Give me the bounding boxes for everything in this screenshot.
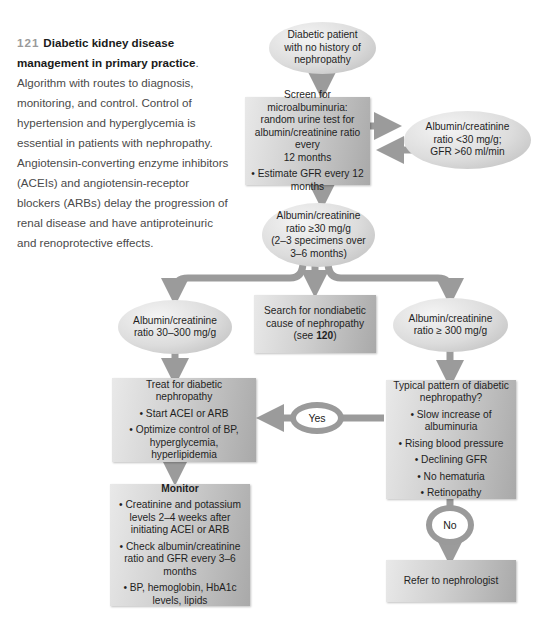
typical-title: Typical pattern of diabetic nephropathy? (392, 380, 510, 405)
yes-label: Yes (308, 412, 325, 424)
refer-box: Refer to nephrologist (386, 560, 516, 602)
monitor-bullet: • Check albumin/creatinine ratio and GFR… (116, 541, 244, 579)
ref-figure: 120 (316, 330, 333, 341)
normal-line: ratio <30 mg/g; (433, 134, 501, 147)
treat-bullet: • Start ACEI or ARB (139, 408, 228, 421)
screen-bullet: • Estimate GFR every 12 months (251, 168, 364, 193)
screen-line: random urine test for (261, 114, 355, 127)
screen-box: Screen for microalbuminuria: random urin… (245, 97, 370, 185)
screen-line: 12 months (284, 152, 332, 165)
typical-bullet: • No hematuria (417, 471, 485, 484)
nondiabetic-line: Search for nondiabetic (264, 305, 366, 318)
macro-line: ratio ≥ 300 mg/g (414, 325, 488, 338)
ref-prefix: (see (293, 330, 316, 341)
elevated-line: (2–3 specimens over (271, 235, 366, 248)
macro-line: Albumin/creatinine (409, 313, 493, 326)
microalbuminuria-node: Albumin/creatinine ratio 30–300 mg/g (118, 300, 232, 354)
monitor-title: Monitor (161, 483, 198, 496)
monitor-bullet: • BP, hemoglobin, HbA1c levels, lipids (116, 582, 244, 607)
normal-result-node: Albumin/creatinine ratio <30 mg/g; GFR >… (404, 111, 531, 169)
monitor-box: Monitor • Creatinine and potassium level… (110, 484, 250, 606)
elevated-line: 3–6 months) (290, 248, 347, 261)
treat-bullet: • Optimize control of BP, hyperglycemia,… (118, 424, 250, 462)
elevated-line: ratio ≥30 mg/g (286, 223, 351, 236)
no-label: No (443, 519, 456, 531)
monitor-bullet: • Creatinine and potassium levels 2–4 we… (116, 499, 244, 537)
typical-bullet: • Slow increase of albuminuria (392, 409, 510, 434)
nondiabetic-line: cause of nephropathy (266, 318, 364, 331)
arrow-elevated-to-macro (328, 262, 450, 292)
start-node: Diabetic patient with no history of neph… (269, 22, 376, 74)
normal-line: GFR >60 ml/min (430, 146, 504, 159)
typical-pattern-box: Typical pattern of diabetic nephropathy?… (386, 380, 516, 499)
elevated-result-node: Albumin/creatinine ratio ≥30 mg/g (2–3 s… (262, 203, 375, 267)
typical-bullet: • Rising blood pressure (399, 438, 504, 451)
ref-suffix: ) (333, 330, 336, 341)
treat-box: Treat for diabetic nephropathy • Start A… (112, 378, 256, 462)
nondiabetic-reference: (see 120) (293, 330, 336, 343)
start-line: Diabetic patient (287, 29, 357, 42)
screen-line: albumin/creatinine ratio every (251, 127, 364, 152)
no-decision: No (426, 505, 474, 545)
typical-bullet: • Retinopathy (421, 487, 482, 500)
micro-line: Albumin/creatinine (133, 315, 217, 328)
screen-line: Screen for microalbuminuria: (251, 89, 364, 114)
nondiabetic-box: Search for nondiabetic cause of nephropa… (254, 295, 376, 353)
start-line: nephropathy (294, 54, 351, 67)
typical-bullet: • Declining GFR (415, 454, 488, 467)
elevated-line: Albumin/creatinine (277, 210, 361, 223)
normal-line: Albumin/creatinine (426, 121, 510, 134)
yes-decision: Yes (290, 402, 344, 434)
start-line: with no history of (284, 42, 360, 55)
treat-title: Treat for diabetic nephropathy (118, 379, 250, 404)
arrow-elevated-to-micro (175, 262, 303, 292)
macroalbuminuria-node: Albumin/creatinine ratio ≥ 300 mg/g (393, 298, 508, 352)
micro-line: ratio 30–300 mg/g (134, 327, 216, 340)
refer-label: Refer to nephrologist (404, 575, 499, 588)
